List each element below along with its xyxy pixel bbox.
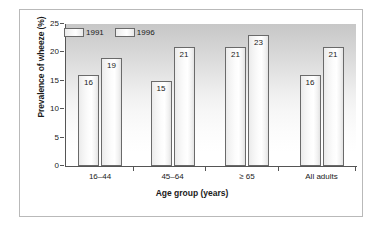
bar-value-label: 21: [175, 50, 194, 59]
bar-value-label: 16: [301, 78, 320, 87]
bars-layer: 1619152121231621: [66, 24, 356, 166]
y-axis-tick-mark: [60, 80, 64, 81]
bar-1991-16–44[interactable]: 16: [78, 75, 99, 166]
y-axis-tick-mark: [60, 51, 64, 52]
bar-group: 1521: [151, 24, 195, 166]
bar-value-label: 19: [102, 61, 121, 70]
bar-group: 1621: [300, 24, 344, 166]
y-axis-tick: 25: [50, 19, 64, 29]
y-axis-tick: 20: [50, 47, 64, 57]
y-axis-tick: 15: [50, 76, 64, 86]
bar-1996-16–44[interactable]: 19: [101, 58, 122, 166]
chart-legend: 19911996: [64, 28, 155, 37]
x-axis-tick-mark: [205, 167, 206, 171]
y-axis-tick: 0: [55, 161, 64, 171]
bar-value-label: 21: [226, 50, 245, 59]
legend-swatch: [64, 28, 84, 37]
legend-item-1996[interactable]: 1996: [115, 28, 155, 37]
y-axis-tick-label: 10: [50, 104, 59, 113]
y-axis-tick-mark: [60, 165, 64, 166]
y-axis-tick-mark: [60, 137, 64, 138]
bar-1996-45–64[interactable]: 21: [174, 47, 195, 166]
y-axis-tick-label: 15: [50, 76, 59, 85]
x-axis-tick-mark: [278, 167, 279, 171]
y-axis-tick-labels: 0510152025: [34, 24, 64, 166]
bar-1991-45–64[interactable]: 15: [151, 81, 172, 166]
y-axis-tick: 5: [55, 133, 64, 143]
y-axis-tick-label: 5: [55, 133, 59, 142]
bar-1991-≥-65[interactable]: 21: [225, 47, 246, 166]
x-axis-tick-mark: [355, 167, 356, 171]
bar-group: 2123: [225, 24, 269, 166]
bar-value-label: 21: [324, 50, 343, 59]
x-axis-category-label: 45–64: [137, 172, 209, 181]
x-axis-category-label: All adults: [286, 172, 358, 181]
bar-value-label: 15: [152, 84, 171, 93]
bar-1996-≥-65[interactable]: 23: [248, 35, 269, 166]
bar-value-label: 23: [249, 38, 268, 47]
x-axis-title: Age group (years): [20, 188, 364, 198]
y-axis-tick: 10: [50, 104, 64, 114]
y-axis-tick-label: 20: [50, 47, 59, 56]
x-axis-category-label: ≥ 65: [211, 172, 283, 181]
bar-value-label: 16: [79, 78, 98, 87]
legend-item-1991[interactable]: 1991: [64, 28, 104, 37]
legend-label: 1991: [86, 28, 104, 37]
legend-swatch: [115, 28, 135, 37]
x-axis-line: [65, 166, 357, 167]
bar-1996-All-adults[interactable]: 21: [323, 47, 344, 166]
y-axis-tick-mark: [60, 23, 64, 24]
legend-label: 1996: [137, 28, 155, 37]
bar-1991-All-adults[interactable]: 16: [300, 75, 321, 166]
y-axis-tick-label: 25: [50, 19, 59, 28]
y-axis-tick-label: 0: [55, 161, 59, 170]
x-axis-tick-mark: [133, 167, 134, 171]
y-axis-tick-mark: [60, 108, 64, 109]
figure-card: Prevalence of wheeze (%) 0510152025 1619…: [19, 9, 363, 217]
x-axis-category-label: 16–44: [64, 172, 136, 181]
bar-group: 1619: [78, 24, 122, 166]
